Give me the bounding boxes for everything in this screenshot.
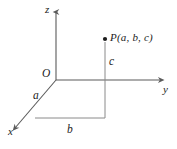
point-p-label: P(a, b, c) bbox=[110, 32, 153, 43]
figure-linework bbox=[0, 0, 177, 149]
origin-label: O bbox=[42, 68, 50, 80]
x-axis-line bbox=[15, 80, 56, 128]
segment-c-label: c bbox=[109, 56, 114, 68]
segment-a-label: a bbox=[33, 90, 39, 102]
z-axis-label: z bbox=[45, 4, 49, 15]
segment-b-label: b bbox=[67, 124, 73, 136]
y-axis-label: y bbox=[163, 84, 168, 95]
x-axis-label: x bbox=[8, 126, 13, 137]
point-p-dot bbox=[103, 37, 107, 41]
coordinate-axes-figure: z y x O a b c P(a, b, c) bbox=[0, 0, 177, 149]
